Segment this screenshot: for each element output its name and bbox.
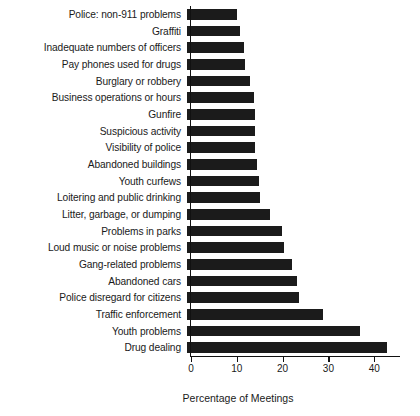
chart-bar-row: Police: non-911 problems [0, 9, 420, 20]
category-label: Problems in parks [0, 226, 186, 237]
category-label: Graffiti [0, 26, 186, 37]
bar-track [186, 276, 420, 287]
category-label: Pay phones used for drugs [0, 59, 186, 70]
chart-bar-row: Gunfire [0, 109, 420, 120]
category-label: Visibility of police [0, 142, 186, 153]
category-label: Loitering and public drinking [0, 192, 186, 203]
chart-bar-row: Traffic enforcement [0, 309, 420, 320]
category-label: Abandoned buildings [0, 159, 186, 170]
chart-bar-row: Problems in parks [0, 226, 420, 237]
bar-track [186, 242, 420, 253]
x-tick-mark [237, 357, 238, 362]
bar-track [186, 126, 420, 137]
x-tick-mark [283, 357, 284, 362]
x-tick-label: 20 [268, 363, 298, 375]
chart-bar-row: Suspicious activity [0, 126, 420, 137]
category-label: Gunfire [0, 109, 186, 120]
bar [187, 309, 323, 320]
category-label: Business operations or hours [0, 92, 186, 103]
bar-track [186, 259, 420, 270]
bar-chart: Police: non-911 problemsGraffitiInadequa… [0, 0, 420, 416]
bar-track [186, 326, 420, 337]
bar [187, 59, 245, 70]
bar-track [186, 9, 420, 20]
bar [187, 42, 244, 53]
chart-rows: Police: non-911 problemsGraffitiInadequa… [0, 6, 420, 356]
bar [187, 342, 387, 353]
bar-track [186, 309, 420, 320]
x-tick-label: 10 [222, 363, 252, 375]
chart-bar-row: Visibility of police [0, 142, 420, 153]
bar-track [186, 342, 420, 353]
bar [187, 209, 270, 220]
category-label: Abandoned cars [0, 276, 186, 287]
chart-bar-row: Loud music or noise problems [0, 242, 420, 253]
category-label: Suspicious activity [0, 126, 186, 137]
bar-track [186, 176, 420, 187]
bar-track [186, 76, 420, 87]
bar [187, 326, 360, 337]
category-label: Police: non-911 problems [0, 9, 186, 20]
chart-bar-row: Youth problems [0, 326, 420, 337]
chart-bar-row: Youth curfews [0, 176, 420, 187]
chart-bar-row: Gang-related problems [0, 259, 420, 270]
category-label: Drug dealing [0, 342, 186, 353]
chart-bar-row: Abandoned cars [0, 276, 420, 287]
category-label: Traffic enforcement [0, 309, 186, 320]
bar [187, 242, 284, 253]
x-tick-mark [328, 357, 329, 362]
x-tick-mark [374, 357, 375, 362]
chart-bar-row: Loitering and public drinking [0, 192, 420, 203]
bar-track [186, 209, 420, 220]
bar [187, 126, 255, 137]
chart-bar-row: Drug dealing [0, 342, 420, 353]
bar-track [186, 159, 420, 170]
category-label: Burglary or robbery [0, 76, 186, 87]
x-axis-title: Percentage of Meetings [0, 392, 420, 404]
bar [187, 26, 240, 37]
category-label: Loud music or noise problems [0, 242, 186, 253]
bar [187, 226, 282, 237]
chart-bar-row: Inadequate numbers of officers [0, 42, 420, 53]
bar-track [186, 226, 420, 237]
bar-track [186, 292, 420, 303]
category-label: Inadequate numbers of officers [0, 42, 186, 53]
bar [187, 109, 255, 120]
bar [187, 292, 299, 303]
x-tick-mark [191, 357, 192, 362]
bar-track [186, 42, 420, 53]
bar-track [186, 59, 420, 70]
bar-track [186, 26, 420, 37]
bar [187, 92, 254, 103]
chart-bar-row: Litter, garbage, or dumping [0, 209, 420, 220]
category-label: Youth curfews [0, 176, 186, 187]
x-tick-label: 30 [313, 363, 343, 375]
x-tick-label: 0 [176, 363, 206, 375]
chart-bar-row: Graffiti [0, 26, 420, 37]
category-label: Youth problems [0, 326, 186, 337]
bar-track [186, 92, 420, 103]
x-axis-line [190, 356, 400, 357]
chart-bar-row: Pay phones used for drugs [0, 59, 420, 70]
bar [187, 192, 260, 203]
bar-track [186, 192, 420, 203]
category-label: Police disregard for citizens [0, 292, 186, 303]
bar [187, 276, 297, 287]
bar [187, 76, 250, 87]
bar [187, 159, 257, 170]
bar [187, 142, 255, 153]
bar [187, 9, 237, 20]
bar-track [186, 142, 420, 153]
category-label: Gang-related problems [0, 259, 186, 270]
chart-bar-row: Business operations or hours [0, 92, 420, 103]
bar-track [186, 109, 420, 120]
chart-bar-row: Abandoned buildings [0, 159, 420, 170]
x-tick-label: 40 [359, 363, 389, 375]
y-axis-line [190, 6, 191, 357]
chart-bar-row: Police disregard for citizens [0, 292, 420, 303]
bar [187, 259, 292, 270]
category-label: Litter, garbage, or dumping [0, 209, 186, 220]
bar [187, 176, 259, 187]
chart-bar-row: Burglary or robbery [0, 76, 420, 87]
